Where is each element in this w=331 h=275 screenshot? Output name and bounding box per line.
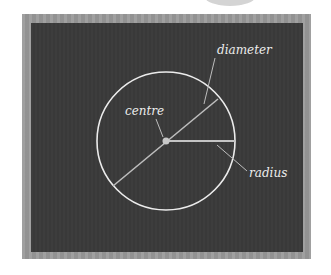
label-diameter: diameter (217, 43, 273, 57)
label-radius: radius (249, 166, 287, 180)
centre-point (163, 138, 170, 145)
label-centre: centre (125, 104, 164, 118)
diameter-leader (204, 58, 215, 104)
radius-leader (217, 145, 247, 171)
circle-diagram: diameter centre radius (0, 0, 331, 275)
centre-leader (156, 119, 163, 137)
